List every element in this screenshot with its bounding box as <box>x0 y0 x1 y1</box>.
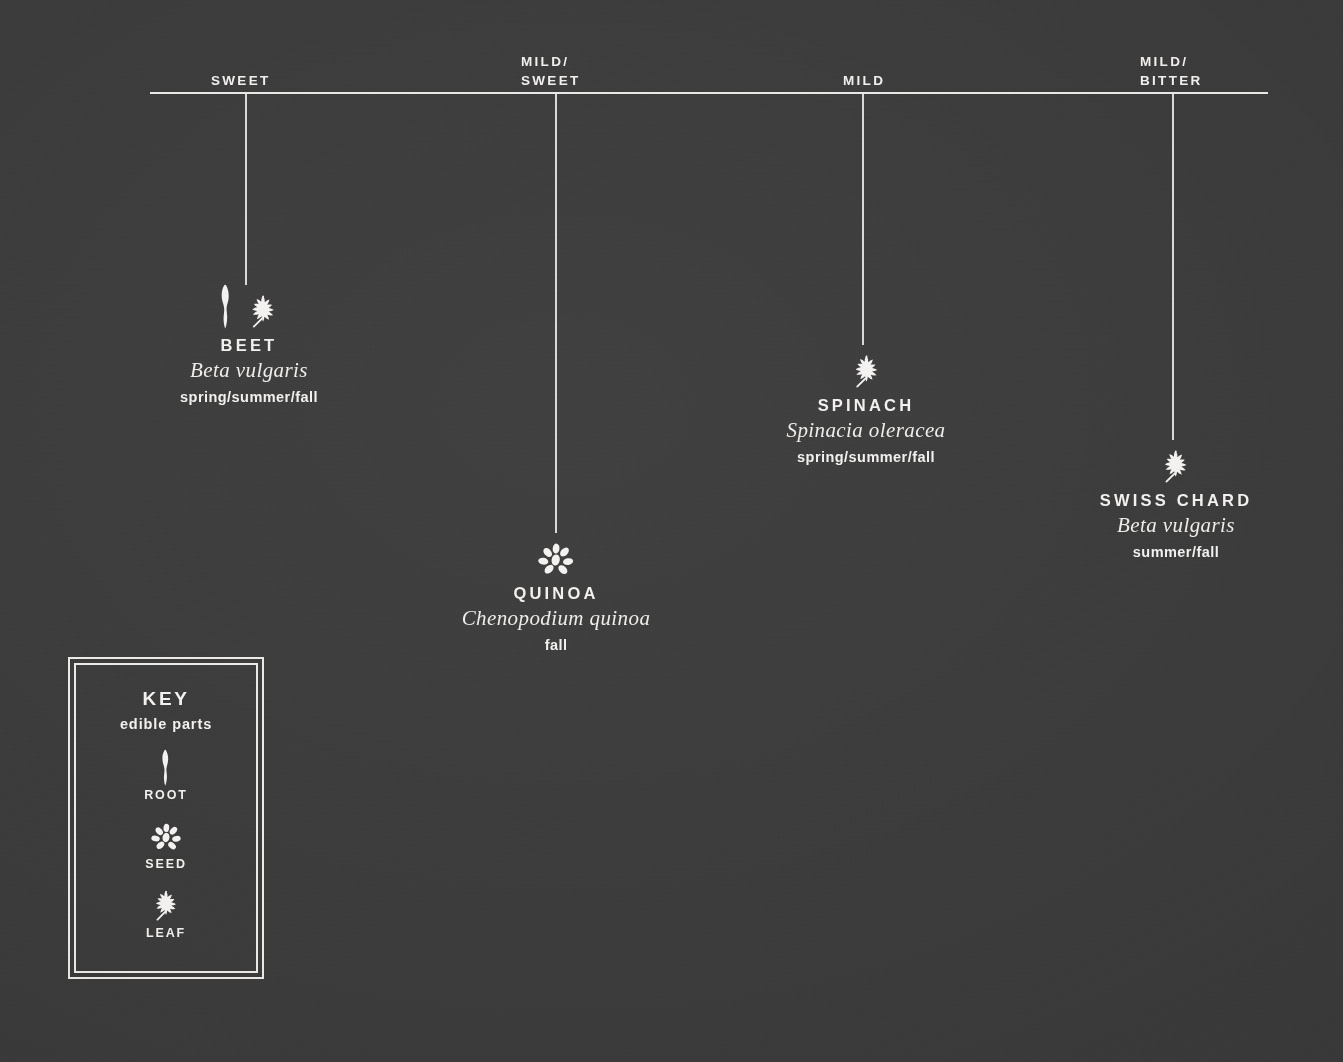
axis-label-mild-bitter: MILD/BITTER <box>1140 52 1203 90</box>
entry-spinach[interactable]: SPINACH Spinacia oleracea spring/summer/… <box>786 343 945 468</box>
leaf-icon <box>850 355 882 389</box>
entry-beet[interactable]: BEET Beta vulgaris spring/summer/fall <box>180 283 318 408</box>
entry-season: spring/summer/fall <box>786 447 945 468</box>
key-item-label: ROOT <box>86 787 246 803</box>
seed-icon <box>150 823 182 852</box>
axis-label-line1: MILD <box>843 73 885 88</box>
root-icon <box>219 285 233 329</box>
key-legend: KEY edible parts ROOT <box>68 657 264 979</box>
axis-label-sweet: SWEET <box>211 71 271 90</box>
entry-swiss-chard[interactable]: SWISS CHARD Beta vulgaris summer/fall <box>1100 438 1253 563</box>
axis-label-line1: MILD/ <box>521 54 569 69</box>
entry-common-name: SWISS CHARD <box>1100 489 1253 511</box>
entry-icons <box>462 531 651 577</box>
axis-label-mild-sweet: MILD/SWEET <box>521 52 581 90</box>
axis-label-line2: SWEET <box>521 73 581 88</box>
key-icon-wrap <box>86 750 246 786</box>
entry-season: summer/fall <box>1100 542 1253 563</box>
leaf-icon <box>151 890 181 922</box>
key-title: KEY <box>86 687 246 711</box>
entry-quinoa[interactable]: QUINOA Chenopodium quinoa fall <box>462 531 651 656</box>
flavor-axis-line <box>150 92 1268 94</box>
key-item-seed: SEED <box>86 819 246 872</box>
entry-latin-name: Beta vulgaris <box>180 357 318 384</box>
tick-spinach <box>862 94 864 345</box>
axis-label-line2: BITTER <box>1140 73 1203 88</box>
entry-common-name: QUINOA <box>462 582 651 604</box>
key-item-leaf: LEAF <box>86 888 246 941</box>
key-item-label: SEED <box>86 856 246 872</box>
key-legend-inner-border: KEY edible parts ROOT <box>74 663 258 973</box>
entry-latin-name: Beta vulgaris <box>1100 512 1253 539</box>
tick-quinoa <box>555 94 557 533</box>
axis-label-mild: MILD <box>843 71 885 90</box>
entry-icons <box>786 343 945 389</box>
key-item-root: ROOT <box>86 750 246 803</box>
axis-label-line1: MILD/ <box>1140 54 1188 69</box>
entry-icons <box>1100 438 1253 484</box>
key-subtitle: edible parts <box>86 714 246 734</box>
entry-latin-name: Spinacia oleracea <box>786 417 945 444</box>
entry-season: fall <box>462 635 651 656</box>
entry-latin-name: Chenopodium quinoa <box>462 605 651 632</box>
entry-common-name: SPINACH <box>786 394 945 416</box>
tick-swiss-chard <box>1172 94 1174 440</box>
tick-beet <box>245 94 247 285</box>
entry-season: spring/summer/fall <box>180 387 318 408</box>
leaf-icon <box>247 295 279 329</box>
entry-common-name: BEET <box>180 334 318 356</box>
entry-icons <box>180 283 318 329</box>
root-icon <box>159 750 173 786</box>
leaf-icon <box>1160 450 1192 484</box>
key-icon-wrap <box>86 888 246 924</box>
seed-icon <box>537 543 575 577</box>
axis-label-line1: SWEET <box>211 73 271 88</box>
key-item-label: LEAF <box>86 925 246 941</box>
key-icon-wrap <box>86 819 246 855</box>
